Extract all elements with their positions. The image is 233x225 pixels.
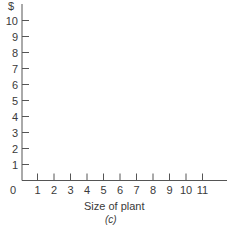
y-tick-label: 4 <box>0 112 18 123</box>
x-tick-label: 2 <box>46 185 62 196</box>
y-tick-label: 8 <box>0 48 18 59</box>
y-tick-label: 9 <box>0 32 18 43</box>
y-tick-label: 1 <box>0 160 18 171</box>
x-tick-label: 10 <box>178 185 194 196</box>
y-tick-label: 6 <box>0 80 18 91</box>
x-tick-label: 9 <box>162 185 178 196</box>
x-tick-label: 5 <box>96 185 112 196</box>
x-tick-label: 1 <box>30 185 46 196</box>
y-tick-label: 7 <box>0 64 18 75</box>
x-tick-label: 7 <box>129 185 145 196</box>
x-axis-label: Size of plant <box>84 201 145 212</box>
y-axis-label: $ <box>8 1 14 12</box>
x-tick-label: 8 <box>145 185 161 196</box>
y-tick-label: 3 <box>0 128 18 139</box>
x-tick-label: 4 <box>79 185 95 196</box>
origin-label: 0 <box>10 185 16 196</box>
y-tick-label: 5 <box>0 96 18 107</box>
x-ticks <box>38 174 203 181</box>
x-tick-label: 6 <box>112 185 128 196</box>
x-tick-label: 11 <box>195 185 211 196</box>
y-tick-label: 10 <box>0 16 18 27</box>
y-ticks <box>22 21 29 165</box>
figure-caption: (c) <box>105 214 117 225</box>
y-tick-label: 2 <box>0 144 18 155</box>
x-tick-label: 3 <box>63 185 79 196</box>
